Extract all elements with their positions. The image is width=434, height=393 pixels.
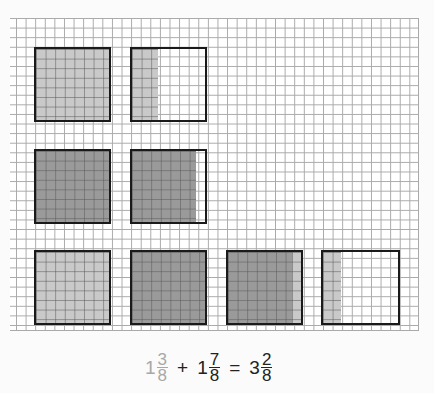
shaded-region <box>36 151 109 222</box>
unit-square-r1-1 <box>34 47 111 122</box>
shaded-region <box>323 252 341 323</box>
term2-denominator: 8 <box>210 368 219 383</box>
shaded-region <box>36 252 109 323</box>
term1-whole: 1 <box>145 357 156 379</box>
result-fraction: 2 8 <box>261 352 272 383</box>
result: 3 2 8 <box>249 352 272 383</box>
term1: 1 3 8 <box>145 352 168 383</box>
equation: 1 3 8 + 1 7 8 = 3 2 8 <box>145 352 272 383</box>
shaded-region <box>132 151 196 222</box>
result-whole: 3 <box>249 357 260 379</box>
shaded-region <box>292 252 303 323</box>
plus-sign: + <box>177 357 188 379</box>
shaded-region <box>132 252 205 323</box>
unit-square-r2-1 <box>34 149 111 224</box>
unit-square-r2-2 <box>130 149 207 224</box>
unit-square-r3-3 <box>226 250 303 325</box>
term1-denominator: 8 <box>158 368 167 383</box>
unit-square-r3-4 <box>321 250 400 325</box>
unit-square-r1-2 <box>130 47 207 122</box>
result-denominator: 8 <box>262 368 271 383</box>
shaded-region <box>228 252 292 323</box>
term2: 1 7 8 <box>197 352 220 383</box>
term2-whole: 1 <box>197 357 208 379</box>
term2-fraction: 7 8 <box>209 352 220 383</box>
shaded-region <box>132 49 158 120</box>
equals-sign: = <box>229 357 240 379</box>
shaded-region <box>36 49 109 120</box>
term1-fraction: 3 8 <box>157 352 168 383</box>
unit-square-r3-1 <box>34 250 111 325</box>
unit-square-r3-2 <box>130 250 207 325</box>
